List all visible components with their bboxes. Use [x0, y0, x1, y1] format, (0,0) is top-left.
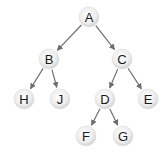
node-label: F	[82, 129, 90, 144]
edge-a-c	[96, 26, 115, 50]
node-b: B	[39, 49, 59, 69]
node-label: H	[19, 92, 28, 107]
nodes-group: ABCHJDEFG	[14, 7, 158, 146]
node-c: C	[112, 49, 132, 69]
node-label: G	[118, 129, 128, 144]
edge-b-j	[52, 70, 57, 88]
node-h: H	[14, 89, 34, 109]
tree-diagram: ABCHJDEFG	[0, 0, 163, 155]
node-g: G	[113, 126, 133, 146]
node-e: E	[138, 89, 158, 109]
node-f: F	[76, 126, 96, 146]
node-label: A	[85, 10, 94, 25]
edges-group	[30, 25, 141, 125]
node-label: B	[45, 52, 54, 67]
edge-d-g	[110, 109, 118, 125]
node-j: J	[50, 89, 70, 109]
edge-b-h	[30, 68, 43, 88]
node-a: A	[79, 7, 99, 27]
edge-c-e	[128, 68, 141, 89]
node-label: J	[57, 92, 64, 107]
edge-d-f	[91, 109, 99, 126]
node-label: C	[117, 52, 126, 67]
edge-a-b	[57, 25, 81, 50]
node-d: D	[95, 89, 115, 109]
edge-c-d	[110, 69, 118, 88]
node-label: D	[100, 92, 109, 107]
node-label: E	[144, 92, 153, 107]
